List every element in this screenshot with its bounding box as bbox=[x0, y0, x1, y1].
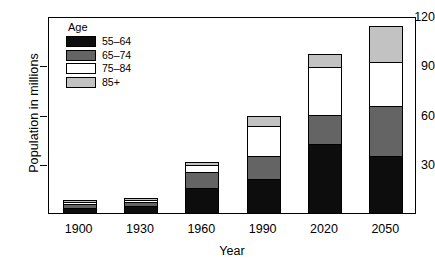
legend-swatch-icon bbox=[66, 63, 96, 74]
bar-segment-1960-65-74[interactable] bbox=[185, 172, 219, 188]
bar-segment-2050-85+[interactable] bbox=[369, 26, 403, 62]
legend-swatch-icon bbox=[66, 77, 96, 88]
bar-segment-2050-65-74[interactable] bbox=[369, 106, 403, 155]
bar-segment-2020-75-84[interactable] bbox=[308, 67, 342, 115]
legend-swatch-icon bbox=[66, 50, 96, 61]
legend-entries: 55–6465–7475–8485+ bbox=[66, 36, 131, 88]
x-axis-tick-label: 2050 bbox=[350, 222, 420, 236]
bar-segment-2020-55-64[interactable] bbox=[308, 144, 342, 213]
bar-segment-1960-55-64[interactable] bbox=[185, 188, 219, 213]
bar-1930[interactable] bbox=[124, 198, 158, 213]
legend-item-label: 55–64 bbox=[102, 36, 131, 47]
bar-2050[interactable] bbox=[369, 26, 403, 213]
bar-1960[interactable] bbox=[185, 162, 219, 213]
bar-segment-1990-55-64[interactable] bbox=[247, 179, 281, 213]
legend-swatch-icon bbox=[66, 36, 96, 47]
legend-item-55–64[interactable]: 55–64 bbox=[66, 36, 131, 47]
bar-segment-2050-55-64[interactable] bbox=[369, 156, 403, 213]
bar-1900[interactable] bbox=[63, 200, 97, 213]
x-axis-tick-label: 1930 bbox=[105, 222, 175, 236]
bar-segment-1990-85+[interactable] bbox=[247, 116, 281, 126]
legend-item-75–84[interactable]: 75–84 bbox=[66, 63, 131, 74]
bar-segment-2050-75-84[interactable] bbox=[369, 62, 403, 106]
x-axis-tick-label: 1900 bbox=[44, 222, 114, 236]
legend-item-label: 75–84 bbox=[102, 63, 131, 74]
bar-segment-1990-75-84[interactable] bbox=[247, 126, 281, 156]
legend-item-label: 65–74 bbox=[102, 50, 131, 61]
y-axis-tick bbox=[40, 116, 47, 117]
legend: Age 55–6465–7475–8485+ bbox=[66, 21, 131, 90]
bar-segment-1930-55-64[interactable] bbox=[124, 206, 158, 213]
x-axis-label: Year bbox=[48, 244, 416, 258]
x-axis-tick-label: 1960 bbox=[166, 222, 236, 236]
legend-item-85+[interactable]: 85+ bbox=[66, 77, 131, 88]
y-axis-tick bbox=[40, 165, 47, 166]
legend-item-label: 85+ bbox=[102, 77, 120, 88]
stacked-bar-chart-figure: Population in millions 306090120 1900193… bbox=[0, 0, 435, 264]
bar-segment-1900-55-64[interactable] bbox=[63, 208, 97, 213]
bar-1990[interactable] bbox=[247, 116, 281, 213]
y-axis-label: Population in millions bbox=[27, 13, 41, 213]
x-axis-tick-label: 2020 bbox=[289, 222, 359, 236]
bar-segment-2020-65-74[interactable] bbox=[308, 115, 342, 145]
bar-segment-1990-65-74[interactable] bbox=[247, 156, 281, 179]
x-axis-tick-label: 1990 bbox=[228, 222, 298, 236]
bar-2020[interactable] bbox=[308, 54, 342, 213]
legend-title: Age bbox=[68, 21, 131, 33]
bar-segment-2020-85+[interactable] bbox=[308, 54, 342, 67]
y-axis-tick bbox=[40, 66, 47, 67]
legend-item-65–74[interactable]: 65–74 bbox=[66, 50, 131, 61]
